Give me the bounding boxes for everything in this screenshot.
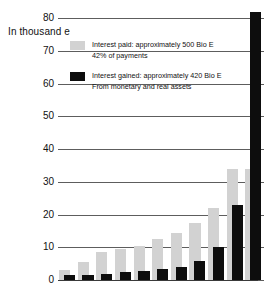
bar-interest-gained [157, 269, 168, 280]
gridline-0 [58, 280, 263, 281]
legend-label-interest-gained-line2: From monetary and real assets [92, 82, 250, 93]
bar-interest-gained [82, 275, 93, 280]
y-tick-label-60: 60 [43, 79, 54, 89]
y-axis-tick-labels: 80 70 60 50 40 30 20 10 0 [24, 18, 54, 280]
legend-label-interest-gained-line1: Interest gained: approximately 420 Bio E [92, 71, 221, 80]
bar-interest-gained [213, 247, 224, 280]
y-tick-label-50: 50 [43, 111, 54, 121]
bar-interest-gained [120, 272, 131, 280]
legend-item-interest-paid: Interest paid: approximately 500 Bio E 4… [70, 40, 250, 61]
bar-interest-gained [64, 275, 75, 280]
legend-swatch-interest-gained [70, 72, 85, 81]
legend-item-interest-gained: Interest gained: approximately 420 Bio E… [70, 71, 250, 92]
bar-interest-gained [194, 261, 205, 280]
legend-label-interest-paid-line2: 42% of payments [92, 51, 250, 62]
y-tick-label-20: 20 [43, 210, 54, 220]
legend-label-interest-paid-line1: Interest paid: approximately 500 Bio E [92, 40, 213, 49]
bar-chart: In thousand e 80 70 60 50 40 30 20 10 0 … [0, 0, 274, 298]
bar-interest-gained [138, 271, 149, 280]
y-tick-label-40: 40 [43, 144, 54, 154]
y-tick-label-30: 30 [43, 177, 54, 187]
y-tick-label-10: 10 [43, 242, 54, 252]
chart-legend: Interest paid: approximately 500 Bio E 4… [70, 40, 250, 102]
bar-interest-gained [232, 205, 243, 280]
bar-interest-gained [101, 274, 112, 280]
legend-swatch-interest-paid [70, 41, 85, 50]
y-tick-label-80: 80 [43, 13, 54, 23]
cropped-header-fringe [0, 0, 274, 7]
y-tick-label-0: 0 [48, 275, 54, 285]
bar-interest-gained [176, 267, 187, 280]
axis-tick-0 [258, 280, 264, 281]
y-tick-label-70: 70 [43, 46, 54, 56]
bar-interest-gained [250, 12, 261, 280]
